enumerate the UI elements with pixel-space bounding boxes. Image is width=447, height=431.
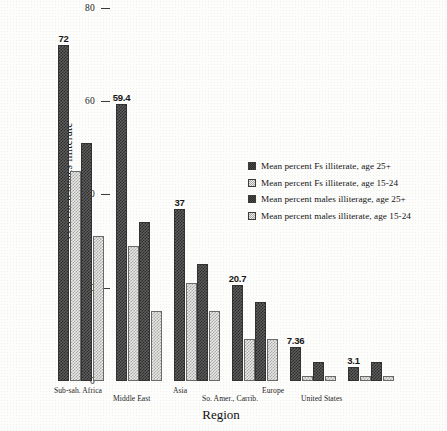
bar-group: 20.7 <box>232 380 278 381</box>
bar <box>255 302 266 381</box>
bar: 3.1 <box>348 367 359 381</box>
bar-value-label: 72 <box>58 33 68 44</box>
y-tick-label: 60 <box>85 95 95 107</box>
x-label-united-states: United States <box>301 394 342 403</box>
legend-item-3: Mean percent males illiterate, age 15-24 <box>248 206 411 223</box>
legend-item-0: Mean percent Fs illiterate, age 25+ <box>248 156 411 173</box>
bar <box>360 376 371 381</box>
bar <box>81 143 92 381</box>
bar <box>371 362 382 381</box>
bar <box>93 236 104 381</box>
legend-item-1: Mean percent Fs illiterate, age 15-24 <box>248 173 411 190</box>
bar-group: 7.36 <box>290 380 336 381</box>
x-label-middle-east: Middle East <box>113 394 150 403</box>
legend-label: Mean percent Fs illiterate, age 25+ <box>261 161 391 171</box>
bar <box>70 171 81 381</box>
bar-value-label: 37 <box>174 197 184 208</box>
bar <box>383 376 394 381</box>
x-label-asia: Asia <box>173 386 187 395</box>
bar <box>151 311 162 381</box>
y-tick-mark <box>101 194 110 195</box>
bar-group: 72 <box>58 380 104 381</box>
y-axis-tick-80: 80 <box>56 2 112 14</box>
x-label-so-amer-carrib: So. Amer., Carrib. <box>202 394 258 403</box>
bar <box>244 339 255 381</box>
bar-chart: 80 60 40 20 0 Percent females illiterate… <box>0 0 447 431</box>
bar-value-label: 20.7 <box>229 273 247 284</box>
bar <box>302 376 313 381</box>
bar-group: 3.1 <box>348 380 394 381</box>
bar: 59.4 <box>116 104 127 381</box>
legend-swatch-icon <box>248 162 256 170</box>
bar <box>197 264 208 381</box>
legend-item-2: Mean percent males illiterage, age 25+ <box>248 189 411 206</box>
bar-group: 37 <box>174 380 220 381</box>
bar <box>128 246 139 381</box>
bar: 7.36 <box>290 347 301 381</box>
bar-group: 59.4 <box>116 380 162 381</box>
y-tick-label: 80 <box>85 2 95 14</box>
bar: 72 <box>58 45 69 381</box>
bar <box>209 311 220 381</box>
bar <box>267 339 278 381</box>
legend-label: Mean percent Fs illiterate, age 15-24 <box>261 178 398 188</box>
bar <box>313 362 324 381</box>
x-label-europe: Europe <box>262 386 284 395</box>
x-axis-title: Region <box>56 407 386 423</box>
bar: 20.7 <box>232 285 243 382</box>
bar <box>139 222 150 381</box>
legend-swatch-icon <box>248 212 256 220</box>
bar <box>186 283 197 381</box>
legend-label: Mean percent males illiterage, age 25+ <box>261 194 406 204</box>
legend-label: Mean percent males illiterate, age 15-24 <box>261 211 411 221</box>
bar-value-label: 7.36 <box>287 335 305 346</box>
y-tick-mark <box>101 101 110 102</box>
bar-value-label: 3.1 <box>347 355 360 366</box>
y-tick-mark <box>101 8 110 9</box>
legend-swatch-icon <box>248 179 256 187</box>
bar-value-label: 59.4 <box>113 92 131 103</box>
bar: 37 <box>174 209 185 382</box>
bar <box>325 376 336 381</box>
x-label-sub-sah-africa: Sub-sah. Africa <box>54 386 102 395</box>
legend-swatch-icon <box>248 195 256 203</box>
legend: Mean percent Fs illiterate, age 25+ Mean… <box>248 156 411 222</box>
